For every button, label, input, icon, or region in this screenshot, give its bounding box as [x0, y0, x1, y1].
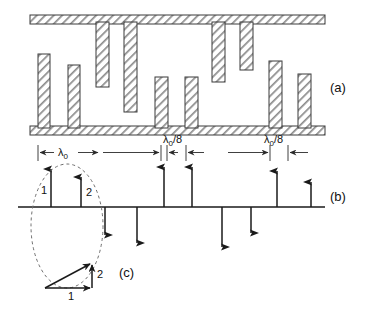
- panel-c-label: (c): [119, 265, 134, 280]
- phasor-label-1: 1: [41, 184, 47, 196]
- slot-bars: [38, 22, 311, 128]
- phasor-label-2: 2: [86, 186, 92, 198]
- waveguide-top-wall: [30, 15, 325, 24]
- panel-b-label: (b): [330, 189, 346, 204]
- lambda-suffix: /8: [274, 133, 283, 145]
- slot-bar: [68, 65, 80, 128]
- panel-a-label: (a): [330, 80, 346, 95]
- lambda-subscript: 0: [64, 152, 69, 161]
- dimension-lines: λ0 λ0/8 λ0/8: [38, 133, 308, 161]
- slot-bar: [212, 22, 225, 82]
- lambda-suffix: /8: [173, 133, 182, 145]
- slot-bar: [240, 22, 253, 70]
- slot-bar: [298, 74, 311, 128]
- dim-label-lambda0-over-8: λ0/8: [264, 133, 283, 148]
- slot-bar: [96, 22, 109, 87]
- dim-label-lambda0-over-8: λ0/8: [163, 133, 182, 148]
- slot-bar: [38, 54, 50, 128]
- panel-c-group: 1 2 (c): [45, 264, 134, 302]
- figure-root: (a) λ0 λ0/8: [0, 0, 366, 309]
- slot-bar: [155, 77, 168, 128]
- technical-figure: (a) λ0 λ0/8: [0, 0, 366, 309]
- slot-bar: [124, 22, 137, 112]
- vector-label-1: 1: [68, 290, 74, 302]
- panel-b-group: 1 2 (b): [18, 164, 346, 288]
- panel-a-group: (a): [30, 15, 346, 135]
- vector-resultant: [45, 264, 90, 288]
- slot-bar: [269, 61, 282, 128]
- dim-label-lambda0: λ0: [58, 146, 69, 161]
- slot-bar: [185, 77, 198, 128]
- vector-label-2: 2: [97, 268, 103, 280]
